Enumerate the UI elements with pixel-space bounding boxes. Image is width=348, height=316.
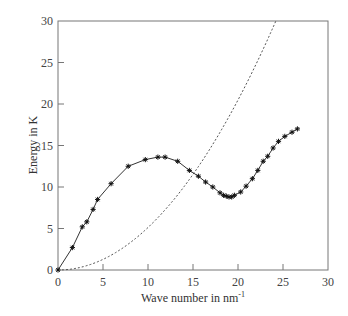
asterisk-marker: [295, 126, 300, 131]
asterisk-marker: [155, 155, 160, 160]
y-tick-label: 15: [41, 139, 53, 153]
asterisk-marker: [109, 181, 114, 186]
solid-fit-line: [58, 129, 297, 270]
y-tick-label: 5: [47, 222, 53, 236]
asterisk-marker: [250, 176, 255, 181]
y-tick-label: 25: [41, 56, 53, 70]
chart: 051015202530 051015202530 Wave number in…: [0, 0, 348, 316]
x-tick-label: 20: [232, 275, 244, 289]
y-axis-ticks: 051015202530: [41, 14, 64, 277]
asterisk-marker: [80, 224, 85, 229]
data-markers: [55, 126, 300, 272]
asterisk-marker: [91, 207, 96, 212]
asterisk-marker: [175, 159, 180, 164]
x-tick-label: 10: [142, 275, 154, 289]
asterisk-marker: [261, 159, 266, 164]
asterisk-marker: [187, 168, 192, 173]
x-axis-ticks: 051015202530: [55, 264, 334, 289]
asterisk-marker: [95, 197, 100, 202]
asterisk-marker: [276, 139, 281, 144]
y-axis-label: Energy in K: [26, 115, 40, 174]
y-tick-label: 30: [41, 14, 53, 28]
asterisk-marker: [203, 179, 208, 184]
asterisk-marker: [196, 174, 201, 179]
x-tick-label: 5: [100, 275, 106, 289]
asterisk-marker: [126, 164, 131, 169]
x-tick-label: 25: [277, 275, 289, 289]
x-tick-label: 15: [187, 275, 199, 289]
asterisk-marker: [255, 168, 260, 173]
y-tick-label: 10: [41, 180, 53, 194]
asterisk-marker: [244, 184, 249, 189]
asterisk-marker: [210, 184, 215, 189]
asterisk-marker: [271, 145, 276, 150]
asterisk-marker: [70, 245, 75, 250]
asterisk-marker: [217, 190, 222, 195]
y-tick-label: 20: [41, 97, 53, 111]
asterisk-marker: [238, 189, 243, 194]
asterisk-marker: [289, 130, 294, 135]
plot-frame: [58, 21, 328, 270]
asterisk-marker: [143, 157, 148, 162]
x-axis-label: Wave number in nm-1: [141, 290, 245, 305]
asterisk-marker: [282, 134, 287, 139]
dashed-parabola-line: [58, 21, 276, 270]
y-tick-label: 0: [47, 263, 53, 277]
asterisk-marker: [163, 155, 168, 160]
x-tick-label: 0: [55, 275, 61, 289]
asterisk-marker: [265, 154, 270, 159]
asterisk-marker: [232, 193, 237, 198]
x-tick-label: 30: [322, 275, 334, 289]
asterisk-marker: [55, 267, 60, 272]
